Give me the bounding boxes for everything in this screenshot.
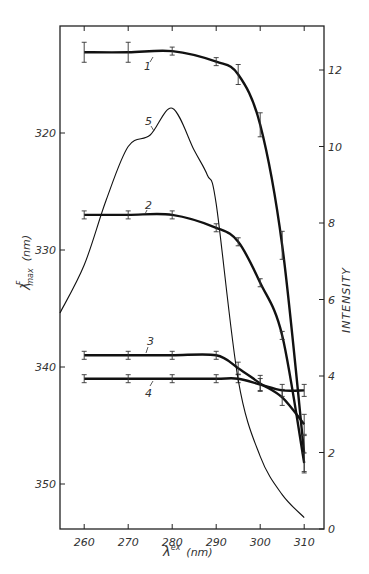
chart: 260270280290300310 320330340350 02468101…	[0, 0, 369, 574]
x-axis-title: λex(nm)	[162, 543, 213, 559]
curve-label-5: 5	[145, 115, 152, 128]
plot-frame	[60, 26, 324, 529]
data-curves	[60, 42, 307, 517]
right-y-tick-label: 10	[328, 141, 342, 154]
x-tick-label: 310	[294, 536, 315, 549]
right-y-tick-label: 6	[328, 294, 335, 307]
curve-label-4: 4	[145, 387, 152, 400]
curve-4	[84, 378, 304, 391]
curve-label-3: 3	[147, 335, 154, 348]
left-y-tick-label: 330	[35, 244, 56, 257]
curve-label-2: 2	[145, 199, 152, 212]
curve-1	[84, 51, 304, 454]
x-tick-label: 300	[250, 536, 271, 549]
curve-3	[84, 354, 304, 424]
right-y-tick-label: 8	[328, 217, 335, 230]
left-y-tick-label: 320	[35, 127, 56, 140]
svg-text:λFmax(nm): λFmax(nm)	[16, 235, 35, 291]
x-tick-label: 260	[74, 536, 95, 549]
x-axis-ticks: 260270280290300310	[74, 26, 315, 549]
right-y-tick-label: 4	[328, 370, 335, 383]
left-y-tick-label: 350	[35, 478, 56, 491]
svg-text:INTENSITY: INTENSITY	[340, 267, 353, 333]
right-y-tick-label: 12	[328, 64, 342, 77]
plot-border	[60, 26, 324, 529]
right-y-tick-label: 0	[328, 523, 335, 536]
curve-2	[84, 214, 304, 463]
right-y-tick-label: 2	[328, 447, 335, 460]
left-y-tick-label: 340	[35, 361, 56, 374]
curve-5	[60, 108, 304, 517]
label-leader	[150, 381, 153, 386]
x-tick-label: 270	[118, 536, 139, 549]
curve-label-1: 1	[144, 60, 151, 73]
right-y-axis-title: INTENSITY	[340, 267, 353, 333]
right-y-axis-ticks: 024681012	[319, 64, 342, 536]
left-y-axis-title: λFmax(nm)	[16, 235, 35, 291]
